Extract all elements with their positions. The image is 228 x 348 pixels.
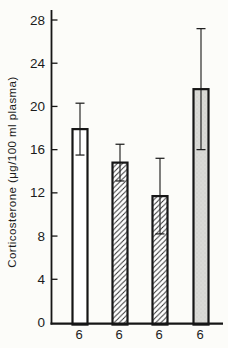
y-tick-label: 16 bbox=[30, 142, 45, 157]
bar-chart: 04812162024286666 bbox=[0, 0, 228, 348]
y-tick-label: 4 bbox=[37, 272, 45, 287]
y-tick-label: 24 bbox=[30, 56, 46, 71]
bar bbox=[113, 163, 128, 325]
y-tick-label: 20 bbox=[30, 99, 45, 114]
bar-count-label: 6 bbox=[196, 327, 203, 342]
bar-count-label: 6 bbox=[115, 327, 122, 342]
y-axis-title: Corticosterone (μg/100 ml plasma) bbox=[2, 22, 22, 322]
y-tick-label: 0 bbox=[37, 315, 45, 330]
y-tick-label: 8 bbox=[37, 229, 45, 244]
bar-count-label: 6 bbox=[155, 327, 162, 342]
chart-plot-area: 04812162024286666 bbox=[30, 10, 223, 342]
figure: 04812162024286666 Corticosterone (μg/100… bbox=[0, 0, 228, 348]
y-tick-label: 28 bbox=[30, 13, 45, 28]
y-tick-label: 12 bbox=[30, 185, 45, 200]
bar bbox=[73, 129, 88, 324]
bar-count-label: 6 bbox=[75, 327, 82, 342]
